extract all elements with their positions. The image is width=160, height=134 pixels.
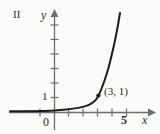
y-axis-label: y [41, 9, 46, 21]
x-tick-label-5: 5 [121, 114, 127, 126]
coordinate-plane-svg [0, 0, 160, 134]
point-annotation-label: (3, 1) [104, 86, 128, 97]
x-axis-label: x [142, 114, 147, 126]
x-axis-arrowhead [148, 109, 156, 117]
y-tick-label-1: 1 [42, 91, 48, 102]
point-marker-3-1 [96, 93, 100, 97]
quadrant-label: II [13, 9, 20, 20]
y-axis-arrowhead [51, 9, 59, 17]
graph-figure: II y x 1 0 5 (3, 1) [0, 0, 160, 134]
origin-label: 0 [43, 116, 49, 128]
